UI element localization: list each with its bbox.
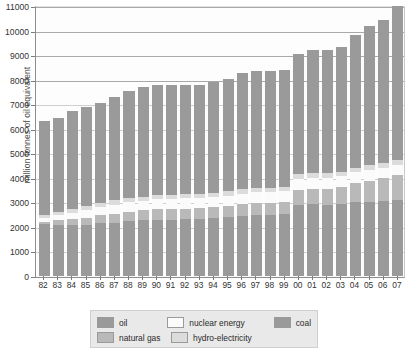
- bar-segment-oil: [350, 202, 361, 276]
- legend-item-natural-gas: natural gas: [97, 332, 171, 343]
- bar-segment-natural-gas: [336, 187, 347, 204]
- bar-segment-oil: [279, 214, 290, 276]
- x-tick-mark-94: [213, 276, 214, 280]
- x-tick-mark-97: [255, 276, 256, 280]
- bar-segment-nuclear-energy: [322, 178, 333, 189]
- bar-segment-coal: [95, 103, 106, 203]
- bar-segment-nuclear-energy: [307, 178, 318, 189]
- legend-swatch-nuclear-energy: [167, 317, 184, 328]
- bar-segment-natural-gas: [251, 203, 262, 215]
- x-tick-mark-90: [156, 276, 157, 280]
- x-tick-mark-92: [185, 276, 186, 280]
- x-tick-mark-05: [369, 276, 370, 280]
- bar-segment-natural-gas: [180, 209, 191, 220]
- bar-segment-nuclear-energy: [336, 176, 347, 187]
- bar-segment-coal: [67, 111, 78, 209]
- bar-segment-nuclear-energy: [364, 170, 375, 181]
- bar-92: [180, 85, 191, 276]
- x-tick-mark-85: [86, 276, 87, 280]
- bar-segment-coal: [237, 73, 248, 189]
- bar-segment-natural-gas: [364, 181, 375, 202]
- x-tick-mark-89: [142, 276, 143, 280]
- bar-93: [194, 85, 205, 276]
- x-tick-label-98: 98: [265, 280, 274, 290]
- bar-05: [364, 26, 375, 276]
- bar-segment-oil: [336, 204, 347, 276]
- x-tick-mark-98: [270, 276, 271, 280]
- bar-segment-natural-gas: [208, 207, 219, 218]
- bar-segment-nuclear-energy: [152, 199, 163, 209]
- bar-segment-natural-gas: [307, 189, 318, 205]
- bar-segment-oil: [180, 219, 191, 276]
- bar-segment-coal: [152, 85, 163, 195]
- bar-segment-oil: [307, 204, 318, 276]
- bar-segment-oil: [223, 217, 234, 276]
- x-tick-mark-07: [397, 276, 398, 280]
- legend-item-oil: oil: [97, 317, 167, 328]
- x-tick-mark-86: [100, 276, 101, 280]
- legend-swatch-natural-gas: [97, 332, 114, 343]
- x-tick-label-03: 03: [336, 280, 345, 290]
- bar-segment-nuclear-energy: [180, 198, 191, 208]
- x-tick-mark-84: [71, 276, 72, 280]
- x-tick-label-02: 02: [321, 280, 330, 290]
- bar-segment-natural-gas: [152, 209, 163, 219]
- bar-segment-coal: [307, 50, 318, 173]
- bar-segment-nuclear-energy: [293, 179, 304, 190]
- y-tick-label-2000: 2000: [10, 223, 29, 233]
- bar-segment-natural-gas: [95, 215, 106, 223]
- y-axis-tick-labels: 0100020003000400050006000700080009000100…: [0, 6, 33, 278]
- bar-segment-coal: [194, 85, 205, 194]
- x-tick-label-07: 07: [392, 280, 401, 290]
- x-tick-mark-02: [326, 276, 327, 280]
- bar-segment-oil: [95, 223, 106, 276]
- bar-segment-oil: [123, 221, 134, 276]
- x-axis-tick-labels: 8283848586878889909192939495969798990001…: [35, 280, 405, 296]
- bar-04: [350, 35, 361, 276]
- x-tick-label-94: 94: [208, 280, 217, 290]
- y-tick-label-8000: 8000: [10, 76, 29, 86]
- bar-07: [392, 6, 403, 276]
- legend-label-coal: coal: [296, 318, 311, 328]
- legend-row-2: natural gas hydro-electricity: [97, 330, 311, 345]
- bar-segment-coal: [53, 118, 64, 212]
- bar-segment-natural-gas: [194, 208, 205, 219]
- bar-segment-coal: [378, 20, 389, 163]
- x-tick-mark-99: [284, 276, 285, 280]
- y-tick-label-7000: 7000: [10, 100, 29, 110]
- bar-segment-nuclear-energy: [265, 192, 276, 203]
- bar-segment-natural-gas: [293, 190, 304, 205]
- bar-segment-coal: [265, 71, 276, 188]
- bar-segment-nuclear-energy: [138, 201, 149, 211]
- x-tick-mark-91: [170, 276, 171, 280]
- x-tick-mark-82: [43, 276, 44, 280]
- y-tick-label-5000: 5000: [10, 149, 29, 159]
- x-tick-label-89: 89: [137, 280, 146, 290]
- x-tick-label-92: 92: [180, 280, 189, 290]
- y-tick-label-1000: 1000: [10, 247, 29, 257]
- bar-segment-natural-gas: [166, 209, 177, 220]
- x-tick-label-84: 84: [67, 280, 76, 290]
- y-tick-label-9000: 9000: [10, 51, 29, 61]
- x-tick-label-04: 04: [350, 280, 359, 290]
- legend-label-natural-gas: natural gas: [119, 333, 160, 343]
- x-tick-mark-01: [312, 276, 313, 280]
- bar-segment-oil: [322, 205, 333, 276]
- bar-segment-nuclear-energy: [166, 199, 177, 209]
- x-tick-label-05: 05: [364, 280, 373, 290]
- bar-06: [378, 20, 389, 276]
- bar-segment-oil: [81, 225, 92, 276]
- legend-swatch-hydro-electricity: [171, 332, 188, 343]
- bar-segment-coal: [223, 79, 234, 191]
- bar-segment-coal: [208, 82, 219, 192]
- bar-segment-oil: [364, 202, 375, 276]
- bar-83: [53, 118, 64, 276]
- bar-96: [237, 73, 248, 276]
- bar-segment-coal: [336, 47, 347, 172]
- bar-segment-oil: [392, 200, 403, 276]
- bar-segment-oil: [237, 216, 248, 276]
- legend-item-hydro-electricity: hydro-electricity: [171, 332, 283, 343]
- x-tick-label-91: 91: [166, 280, 175, 290]
- bar-88: [123, 91, 134, 276]
- x-tick-label-95: 95: [222, 280, 231, 290]
